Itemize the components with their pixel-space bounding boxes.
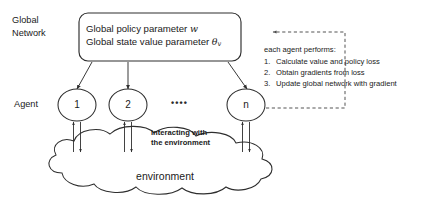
procedure-step-1-text: Calculate value and policy loss [276, 57, 428, 66]
label-global-network: GlobalNetwork [12, 14, 46, 41]
diagram-vector-layer [0, 0, 428, 220]
label-global-network-line1: Global [12, 15, 39, 25]
procedure-step-3-text: Update global network with gradient [276, 79, 428, 88]
label-interacting-line2: the environment [151, 138, 210, 147]
label-environment: environment [0, 170, 330, 182]
label-global-network-line2: Network [12, 28, 46, 38]
procedure-step-2-text: Obtain gradients from loss [276, 68, 428, 77]
procedure-step-3-index: 3. [264, 79, 276, 88]
procedure-step-3: 3. Update global network with gradient [264, 79, 428, 88]
value-parameter-subscript: v [218, 40, 222, 48]
procedure-heading: each agent performs: [264, 45, 428, 54]
procedure-step-2-index: 2. [264, 68, 276, 77]
global-policy-parameter-text: Global policy parameter [86, 23, 190, 34]
label-interacting-with-environment: interacting withthe environment [151, 128, 210, 149]
agents-ellipsis-dots: •••• [171, 98, 188, 109]
agent-label-1: 1 [62, 99, 92, 110]
procedure-step-1-index: 1. [264, 57, 276, 66]
agent-procedure-list: each agent performs: 1. Calculate value … [264, 45, 428, 90]
procedure-step-1: 1. Calculate value and policy loss [264, 57, 428, 66]
arrow-global-to-agent-1 [77, 62, 92, 89]
agent-label-2: 2 [113, 99, 143, 110]
agent-label-n: n [231, 99, 261, 110]
global-value-parameter-line: Global state value parameter θv [86, 36, 221, 49]
procedure-step-2: 2. Obtain gradients from loss [264, 68, 428, 77]
label-agent-row: Agent [14, 99, 38, 110]
arrow-global-to-agent-n [228, 62, 247, 89]
global-policy-parameter-line: Global policy parameter w [86, 23, 198, 34]
diagram-canvas: GlobalNetwork Agent Global policy parame… [0, 0, 428, 220]
policy-parameter-symbol: w [190, 23, 198, 34]
global-value-parameter-text: Global state value parameter [86, 36, 212, 47]
label-interacting-line1: interacting with [151, 128, 207, 137]
